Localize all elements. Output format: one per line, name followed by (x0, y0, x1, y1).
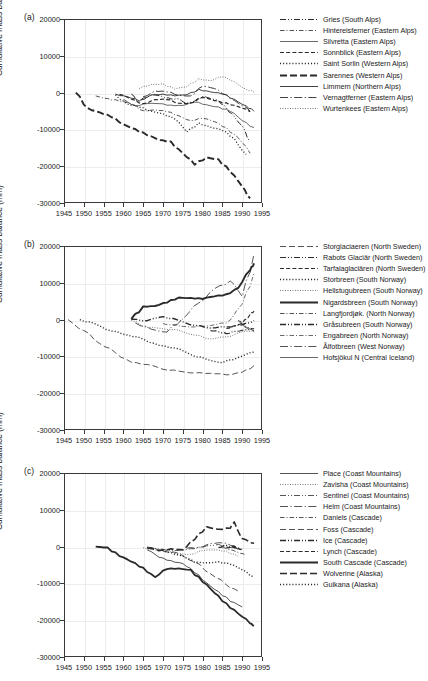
legend-line-swatch (280, 104, 318, 113)
legend-item[interactable]: Daniels (Cascade) (280, 512, 428, 523)
legend-item[interactable]: Gulkana (Alaska) (280, 579, 428, 590)
y-tick-mark (60, 320, 64, 321)
legend-label: Sarennes (Western Alps) (323, 71, 402, 80)
legend-item[interactable]: Engabreen (North Norway) (280, 330, 428, 341)
legend-line-swatch (280, 298, 318, 307)
legend-line-swatch (280, 353, 318, 362)
x-tick-mark (222, 430, 223, 434)
y-tick-mark (60, 393, 64, 394)
legend-item[interactable]: Lynch (Cascade) (280, 546, 428, 557)
x-tick-mark (262, 203, 263, 207)
y-tick-mark (60, 356, 64, 357)
legend-item[interactable]: Limmern (Northern Alps) (280, 81, 428, 92)
legend-label: Gråsubreen (South Norway) (323, 320, 412, 329)
x-tick-mark (203, 203, 204, 207)
y-tick-mark (60, 547, 64, 548)
x-tick-label: 1975 (175, 663, 191, 672)
legend-label: Gries (South Alps) (323, 15, 381, 24)
legend-item[interactable]: Wolverine (Alaska) (280, 568, 428, 579)
legend-item[interactable]: South Cascade (Cascade) (280, 557, 428, 568)
legend-line-swatch (280, 15, 318, 24)
legend-label: Daniels (Cascade) (323, 513, 382, 522)
panel-c-x-ticks: 1945195019551960196519701975198019851990… (64, 657, 262, 675)
legend-label: Lynch (Cascade) (323, 547, 377, 556)
y-tick-label: -20000 (37, 162, 60, 171)
legend-item[interactable]: Sarennes (Western Alps) (280, 69, 428, 80)
x-tick-mark (143, 430, 144, 434)
legend-item[interactable]: Hofsjökul N (Central Iceland) (280, 352, 428, 363)
legend-item[interactable]: Hintereisferner (Eastern Alps) (280, 25, 428, 36)
x-tick-mark (242, 430, 243, 434)
x-tick-label: 1970 (155, 209, 171, 218)
legend-item[interactable]: Langfjordjøk. (North Norway) (280, 308, 428, 319)
panel-c: (c) Cumulative mass balance (mm) 2000010… (0, 454, 428, 681)
x-tick-mark (222, 657, 223, 661)
legend-line-swatch (280, 309, 318, 318)
legend-item[interactable]: Nigardsbreen (South Norway) (280, 296, 428, 307)
legend-item[interactable]: Zavisha (Coast Mountains) (280, 479, 428, 490)
legend-item[interactable]: Wurtenkees (Eastern Alps) (280, 103, 428, 114)
legend-label: Hintereisferner (Eastern Alps) (323, 26, 417, 35)
x-tick-label: 1990 (234, 209, 250, 218)
legend-label: Storglaciaeren (North Sweden) (323, 242, 421, 251)
panel-a-legend: Gries (South Alps)Hintereisferner (Easte… (280, 14, 428, 114)
y-tick-label: -10000 (37, 125, 60, 134)
x-tick-label: 1995 (254, 436, 270, 445)
x-tick-mark (222, 203, 223, 207)
y-tick-label: -30000 (37, 199, 60, 208)
legend-item[interactable]: Hellstugubreen (South Norway) (280, 285, 428, 296)
legend-label: Ice (Cascade) (323, 536, 367, 545)
x-tick-label: 1950 (76, 436, 92, 445)
legend-item[interactable]: Ice (Cascade) (280, 535, 428, 546)
x-tick-label: 1960 (115, 209, 131, 218)
legend-label: Gulkana (Alaska) (323, 580, 378, 589)
legend-label: South Cascade (Cascade) (323, 558, 407, 567)
x-tick-mark (203, 430, 204, 434)
x-tick-mark (104, 430, 105, 434)
y-tick-mark (60, 620, 64, 621)
panel-b-legend: Storglaciaeren (North Sweden)Rabots Glac… (280, 241, 428, 363)
x-tick-mark (242, 203, 243, 207)
x-tick-mark (64, 430, 65, 434)
legend-line-swatch (280, 253, 318, 262)
legend-item[interactable]: Tarfalaglaciären (North Sweden) (280, 263, 428, 274)
legend-line-swatch (280, 558, 318, 567)
legend-item[interactable]: Sonnblick (Eastern Alps) (280, 47, 428, 58)
x-tick-mark (84, 657, 85, 661)
x-tick-mark (163, 657, 164, 661)
legend-item[interactable]: Helm (Coast Mountains) (280, 501, 428, 512)
panel-a-plot-area (64, 19, 262, 203)
panel-b: (b) Cumulative mass balance (mm) 2000010… (0, 227, 428, 454)
legend-line-swatch (280, 513, 318, 522)
legend-item[interactable]: Saint Sorlin (Western Alps) (280, 58, 428, 69)
legend-item[interactable]: Storglaciaeren (North Sweden) (280, 241, 428, 252)
y-tick-label: -20000 (37, 616, 60, 625)
legend-item[interactable]: Gråsubreen (South Norway) (280, 319, 428, 330)
series-line (139, 77, 254, 92)
legend-label: Ålfotbreen (West Norway) (323, 342, 405, 351)
legend-label: Zavisha (Coast Mountains) (323, 480, 408, 489)
legend-item[interactable]: Silvretta (Eastern Alps) (280, 36, 428, 47)
legend-line-swatch (280, 469, 318, 478)
x-tick-mark (104, 203, 105, 207)
legend-item[interactable]: Gries (South Alps) (280, 14, 428, 25)
legend-item[interactable]: Place (Coast Mountains) (280, 468, 428, 479)
series-line (96, 547, 254, 626)
legend-item[interactable]: Vernagtferner (Eastern Alps) (280, 92, 428, 103)
legend-item[interactable]: Sentinel (Coast Mountains) (280, 490, 428, 501)
x-tick-label: 1965 (135, 209, 151, 218)
x-tick-mark (123, 203, 124, 207)
legend-label: Wolverine (Alaska) (323, 569, 383, 578)
legend-item[interactable]: Storbreen (South Norway) (280, 274, 428, 285)
x-tick-mark (143, 657, 144, 661)
legend-item[interactable]: Ålfotbreen (West Norway) (280, 341, 428, 352)
legend-label: Vernagtferner (Eastern Alps) (323, 93, 413, 102)
x-tick-mark (262, 430, 263, 434)
legend-line-swatch (280, 37, 318, 46)
y-tick-label: 10000 (39, 51, 60, 60)
panel-c-series-layer (64, 473, 262, 657)
legend-item[interactable]: Rabots Glaciär (North Sweden) (280, 252, 428, 263)
x-tick-label: 1980 (194, 209, 210, 218)
legend-label: Wurtenkees (Eastern Alps) (323, 104, 408, 113)
legend-item[interactable]: Foss (Cascade) (280, 523, 428, 534)
